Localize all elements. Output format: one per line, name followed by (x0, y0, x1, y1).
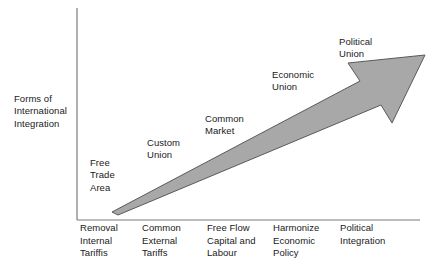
stage-label-political-union: Political Union (339, 36, 372, 61)
stage-label-common-market: Common Market (205, 113, 244, 138)
x-axis-label-political-integration: Political Integration (340, 222, 410, 247)
integration-diagram: Forms of International Integration Free … (0, 0, 436, 275)
stage-label-custom-union: Custom Union (147, 137, 180, 162)
x-axis-label-removal-internal-tariffs: Removal Internal Tariffis (80, 222, 150, 260)
y-axis-title: Forms of International Integration (14, 93, 76, 130)
stage-label-economic-union: Economic Union (272, 69, 314, 94)
x-axis-label-common-external-tariffs: Common External Tariffs (142, 222, 212, 260)
growth-arrow-icon (112, 55, 425, 215)
x-axis-label-harmonize-economic-policy: Harmonize Economic Policy (273, 222, 343, 260)
stage-label-free-trade-area: Free Trade Area (90, 157, 115, 194)
x-axis-label-free-flow-capital-labour: Free Flow Capital and Labour (207, 222, 277, 260)
